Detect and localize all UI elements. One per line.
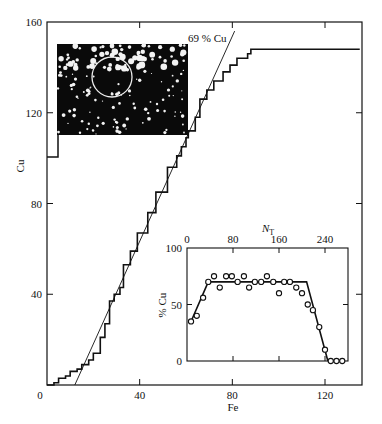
inset-data-point xyxy=(252,279,257,284)
inset-data-point xyxy=(271,279,276,284)
inset-data-point xyxy=(241,274,246,279)
inset-data-point xyxy=(229,274,234,279)
inset-data-point xyxy=(259,279,264,284)
inset-data-point xyxy=(299,291,304,296)
inset-x-tick-label: 0 xyxy=(184,233,190,245)
inset-data-point xyxy=(294,285,299,290)
inset-x-axis-label: NT xyxy=(261,222,274,237)
x-tick-label: 80 xyxy=(227,389,239,401)
chart-canvas: 040801204080120160 Fe Cu 69 % Cu 0801602… xyxy=(0,0,382,424)
inset-data-point xyxy=(201,295,206,300)
inset-data-point xyxy=(194,313,199,318)
y-tick-label: 80 xyxy=(31,198,43,210)
inset-data-point xyxy=(317,325,322,330)
y-tick-label: 120 xyxy=(26,107,43,119)
inset-chart: 080160240050100 NT % Cu xyxy=(156,222,348,367)
inset-data-point xyxy=(235,279,240,284)
x-axis-label: Fe xyxy=(228,401,239,413)
x-tick-label: 40 xyxy=(134,389,146,401)
y-axis-label: Cu xyxy=(14,159,26,172)
inset-x-tick-label: 240 xyxy=(317,233,334,245)
inset-y-axis-label: % Cu xyxy=(156,292,168,317)
inset-data-point xyxy=(247,285,252,290)
inset-data-point xyxy=(334,358,339,363)
micrograph-leader-line xyxy=(47,135,58,157)
inset-data-point xyxy=(188,319,193,324)
x-tick-label: 0 xyxy=(37,389,43,401)
inset-y-tick-label: 100 xyxy=(166,242,183,254)
inset-data-point xyxy=(340,358,345,363)
inset-data-point xyxy=(287,279,292,284)
inset-data-point xyxy=(276,291,281,296)
inset-data-point xyxy=(224,274,229,279)
inset-data-point xyxy=(322,347,327,352)
inset-y-tick-label: 50 xyxy=(171,299,183,311)
inset-data-point xyxy=(305,302,310,307)
y-tick-label: 40 xyxy=(31,288,43,300)
inset-y-tick-label: 0 xyxy=(177,355,183,367)
micrograph-inset xyxy=(57,43,188,135)
inset-data-point xyxy=(264,274,269,279)
inset-x-tick-label: 80 xyxy=(228,233,240,245)
inset-data-point xyxy=(211,274,216,279)
inset-data-point xyxy=(310,308,315,313)
inset-data-point xyxy=(206,279,211,284)
y-tick-label: 160 xyxy=(26,16,43,28)
inset-data-point xyxy=(328,358,333,363)
inset-data-point xyxy=(217,285,222,290)
inset-data-point xyxy=(282,279,287,284)
x-tick-label: 120 xyxy=(317,389,334,401)
fit-line-annotation: 69 % Cu xyxy=(188,32,227,44)
